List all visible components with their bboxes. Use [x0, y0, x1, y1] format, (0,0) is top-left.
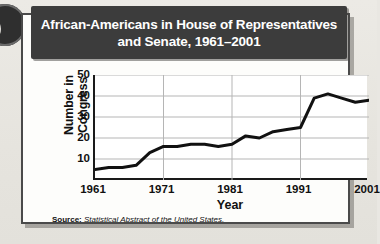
y-axis-tick-label: 40	[77, 90, 90, 102]
source-label: Source:	[52, 215, 82, 224]
chart-title: African-Americans in House of Representa…	[31, 16, 347, 50]
chart-area: Number in Congress 1020304050 1961197119…	[46, 75, 371, 205]
source-note: Source: Statistical Abstract of the Unit…	[52, 215, 352, 224]
chart-title-banner: African-Americans in House of Representa…	[31, 6, 347, 59]
y-axis-tick-label: 10	[77, 153, 90, 165]
x-axis-tick-label: 1961	[80, 183, 106, 195]
y-axis-tick-label: 50	[77, 69, 90, 81]
chart-line-svg	[95, 75, 369, 180]
x-axis-tick-label: 1981	[217, 183, 243, 195]
x-axis-title: Year	[93, 198, 367, 212]
source-text: Statistical Abstract of the United State…	[84, 215, 224, 224]
plot-area	[93, 75, 367, 180]
binder-ring-hole	[0, 17, 1, 41]
x-axis-tick-labels: 19611971198119912001	[93, 183, 367, 199]
x-axis-tick-label: 1991	[286, 183, 312, 195]
y-axis-tick-label: 30	[77, 111, 90, 123]
y-axis-tick-label: 20	[77, 132, 90, 144]
x-axis-tick-label: 2001	[354, 183, 380, 195]
y-axis-tick-labels: 1020304050	[68, 75, 90, 180]
x-axis-tick-label: 1971	[149, 183, 175, 195]
